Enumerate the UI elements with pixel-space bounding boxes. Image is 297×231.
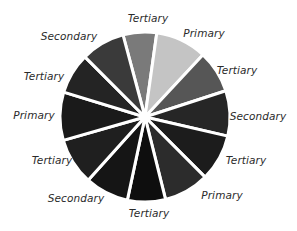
label-primary-upper-right: Primary [183,27,224,39]
label-tertiary-bottom: Tertiary [129,207,170,219]
label-tertiary-left-lower: Tertiary [32,154,73,166]
label-tertiary-right-upper: Tertiary [217,64,258,76]
label-tertiary-right-lower: Tertiary [226,154,267,166]
label-primary-lower-right: Primary [201,189,242,201]
label-tertiary-top: Tertiary [128,12,169,24]
label-secondary-upper-left: Secondary [41,30,98,42]
wheel-center-hub [142,114,148,120]
label-secondary-right: Secondary [230,110,287,122]
label-primary-left: Primary [13,109,54,121]
label-secondary-lower-left: Secondary [48,192,105,204]
label-tertiary-left-upper: Tertiary [24,70,65,82]
